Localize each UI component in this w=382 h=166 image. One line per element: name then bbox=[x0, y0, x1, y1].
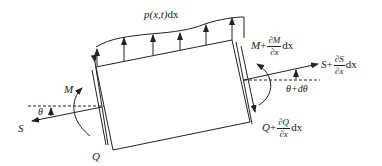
right-axial-arrow bbox=[244, 64, 318, 80]
load-arrows bbox=[97, 18, 232, 66]
left-shear-arrow bbox=[92, 62, 108, 145]
rm-den: ∂x bbox=[267, 47, 281, 57]
rq-base: Q bbox=[262, 121, 270, 133]
left-shear-label: Q bbox=[92, 151, 100, 162]
beam-body bbox=[96, 40, 250, 150]
ra-den: ∂x bbox=[334, 66, 345, 76]
ra-plus: + bbox=[327, 58, 333, 70]
rq-den: ∂x bbox=[277, 129, 290, 139]
rm-frac: ∂M∂x bbox=[267, 36, 281, 57]
rm-num: ∂M bbox=[267, 36, 281, 47]
right-axial-label: S+∂S∂xdx bbox=[321, 55, 357, 76]
left-angle-label: θ bbox=[38, 107, 43, 117]
right-moment-label: M+∂M∂xdx bbox=[251, 36, 293, 57]
ra-dx: dx bbox=[346, 58, 357, 70]
ra-num: ∂S bbox=[334, 55, 345, 66]
rq-plus: + bbox=[270, 121, 276, 133]
rq-dx: dx bbox=[291, 121, 302, 133]
left-axial-label: S bbox=[18, 123, 24, 134]
right-shear-label: Q+∂Q∂xdx bbox=[262, 118, 302, 139]
beam-element-diagram bbox=[0, 0, 382, 166]
rm-plus: + bbox=[260, 39, 266, 51]
ra-frac: ∂S∂x bbox=[334, 55, 345, 76]
left-moment-label: M bbox=[64, 84, 73, 95]
load-label: p(x,t)dx bbox=[144, 9, 179, 20]
rm-dx: dx bbox=[282, 39, 293, 51]
right-angle-label: θ+dθ bbox=[286, 84, 308, 94]
load-dx: dx bbox=[168, 8, 179, 20]
rq-frac: ∂Q∂x bbox=[277, 118, 290, 139]
rm-base: M bbox=[251, 39, 260, 51]
rq-num: ∂Q bbox=[277, 118, 290, 129]
right-moment-arc bbox=[257, 64, 271, 105]
load-func: p(x,t) bbox=[144, 8, 168, 20]
